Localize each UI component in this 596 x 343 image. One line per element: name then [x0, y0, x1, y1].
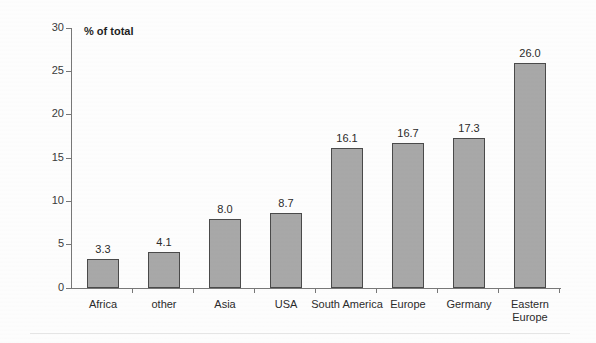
y-tick-mark — [66, 71, 72, 72]
bar[interactable] — [392, 143, 424, 288]
chart-figure: % of total 0 5 10 15 20 25 30 3.3Africa4… — [0, 0, 596, 343]
bar-value-label: 8.0 — [195, 203, 255, 215]
y-tick-mark — [66, 288, 72, 289]
bar[interactable] — [148, 252, 180, 288]
y-tick-mark — [66, 158, 72, 159]
y-tick-label: 25 — [32, 65, 64, 76]
x-axis-line — [71, 288, 561, 289]
y-tick-label: 20 — [32, 108, 64, 119]
figure-bottom-rule — [30, 333, 570, 334]
bar[interactable] — [453, 138, 485, 288]
x-tick-mark — [193, 288, 194, 293]
y-tick-mark — [66, 28, 72, 29]
bar-value-label: 3.3 — [73, 243, 133, 255]
bar-value-label: 17.3 — [439, 122, 499, 134]
bar-value-label: 16.7 — [378, 127, 438, 139]
y-tick-mark — [66, 114, 72, 115]
y-tick-label: 5 — [32, 238, 64, 249]
y-axis-title: % of total — [84, 25, 134, 37]
y-tick-mark — [66, 244, 72, 245]
bar-value-label: 26.0 — [500, 47, 560, 59]
bar[interactable] — [87, 259, 119, 288]
bar[interactable] — [209, 219, 241, 288]
y-tick-label: 0 — [32, 282, 64, 293]
x-tick-mark — [254, 288, 255, 293]
bar-value-label: 8.7 — [256, 197, 316, 209]
bar[interactable] — [514, 63, 546, 288]
x-tick-mark — [376, 288, 377, 293]
x-tick-mark — [315, 288, 316, 293]
bar[interactable] — [331, 148, 363, 288]
x-category-label: EasternEurope — [487, 298, 573, 324]
x-tick-mark — [559, 288, 560, 293]
x-tick-mark — [437, 288, 438, 293]
y-tick-label: 30 — [32, 22, 64, 33]
y-tick-mark — [66, 201, 72, 202]
bar-value-label: 16.1 — [317, 132, 377, 144]
y-tick-label: 10 — [32, 195, 64, 206]
x-tick-mark — [498, 288, 499, 293]
bar[interactable] — [270, 213, 302, 288]
plot-area: % of total 0 5 10 15 20 25 30 3.3Africa4… — [72, 28, 560, 288]
bar-value-label: 4.1 — [134, 236, 194, 248]
y-tick-label: 15 — [32, 152, 64, 163]
x-tick-mark — [132, 288, 133, 293]
